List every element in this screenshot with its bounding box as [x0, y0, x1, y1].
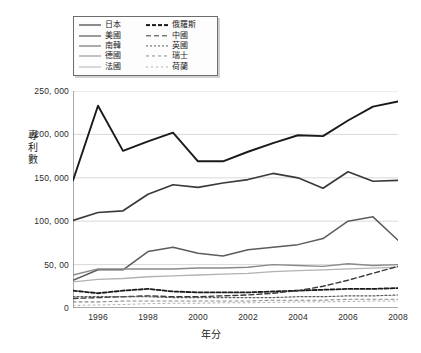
y-axis-tick-label: 100, 000	[34, 216, 69, 226]
y-axis-tick-labels: 250, 000200, 000150, 000100, 00050, 000	[0, 91, 69, 308]
series-line-日本	[73, 101, 398, 180]
series-line-荷蘭	[73, 301, 398, 305]
legend-swatch-solid-icon	[79, 63, 101, 70]
legend-swatch-solid-icon	[79, 53, 101, 60]
legend-row: 日本俄羅斯	[79, 20, 213, 30]
x-axis-tick-label: 2008	[388, 312, 408, 322]
legend-item-美國[interactable]: 美國	[79, 32, 146, 40]
scan-header-strip	[4, 0, 244, 9]
x-axis-tick-label: 2006	[338, 312, 358, 322]
x-axis-tick-label: 1998	[138, 312, 158, 322]
legend-label: 德國	[105, 52, 121, 60]
legend-item-法國[interactable]: 法國	[79, 63, 146, 71]
series-line-美國	[73, 172, 398, 221]
legend-row: 南韓英國	[79, 41, 213, 51]
x-axis-tick-label: 1996	[88, 312, 108, 322]
legend-item-日本[interactable]: 日本	[79, 21, 146, 29]
legend-label: 法國	[105, 63, 121, 71]
y-axis-tick-label: 200, 000	[34, 129, 69, 139]
x-axis-title: 年分	[0, 326, 421, 341]
y-axis-tick-label: 150, 000	[34, 173, 69, 183]
series-line-南韓	[73, 217, 398, 280]
legend-label: 俄羅斯	[172, 21, 196, 29]
y-axis-tick-label: 50, 00	[44, 260, 69, 270]
series-line-俄羅斯	[73, 288, 398, 293]
legend-swatch-solid-icon	[79, 22, 101, 29]
legend-swatch-solid-icon	[79, 32, 101, 39]
legend-label: 瑞士	[172, 52, 188, 60]
x-axis-tick-labels: 1996199820002002200420062008	[0, 312, 421, 324]
legend-item-英國[interactable]: 英國	[146, 42, 213, 50]
legend-item-南韓[interactable]: 南韓	[79, 42, 146, 50]
chart-plot-area	[73, 91, 398, 308]
y-axis-tick-label: 250, 000	[34, 86, 69, 96]
y-axis-title: 專利數	[26, 130, 39, 166]
chart-legend: 日本俄羅斯美國中國南韓英國德國瑞士法國荷蘭	[73, 16, 218, 76]
legend-label: 美國	[105, 32, 121, 40]
series-line-中國	[73, 266, 398, 298]
legend-label: 日本	[105, 21, 121, 29]
x-axis-tick-label: 2000	[188, 312, 208, 322]
legend-row: 德國瑞士	[79, 51, 213, 61]
x-axis-tick-label: 2004	[288, 312, 308, 322]
legend-item-荷蘭[interactable]: 荷蘭	[146, 63, 213, 71]
legend-label: 荷蘭	[172, 63, 188, 71]
legend-swatch-dashed-thick-icon	[146, 22, 168, 29]
legend-item-德國[interactable]: 德國	[79, 52, 146, 60]
legend-swatch-dotted-fine-icon	[146, 42, 168, 49]
legend-label: 中國	[172, 32, 188, 40]
legend-swatch-dashed-long-icon	[146, 32, 168, 39]
legend-item-俄羅斯[interactable]: 俄羅斯	[146, 21, 213, 29]
legend-swatch-dashed-sparse-icon	[146, 53, 168, 60]
legend-label: 南韓	[105, 42, 121, 50]
line-chart-svg	[73, 91, 398, 308]
legend-swatch-solid-icon	[79, 42, 101, 49]
legend-row: 法國荷蘭	[79, 62, 213, 72]
legend-item-中國[interactable]: 中國	[146, 32, 213, 40]
x-axis-tick-label: 2002	[238, 312, 258, 322]
legend-label: 英國	[172, 42, 188, 50]
legend-item-瑞士[interactable]: 瑞士	[146, 52, 213, 60]
legend-row: 美國中國	[79, 30, 213, 40]
legend-swatch-dotted-faint-icon	[146, 63, 168, 70]
